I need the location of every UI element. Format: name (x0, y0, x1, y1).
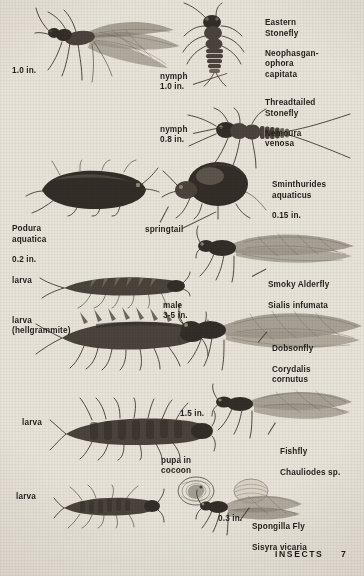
label-eastern-stonefly-name: Eastern Stonefly (265, 18, 299, 37)
figure-sminthurides-springtail (162, 158, 272, 220)
label-spongilla-fly-name: Spongilla Fly (252, 522, 305, 531)
label-larva-fishfly: larva (22, 418, 42, 428)
label-sminthurides-measure: 0.15 in. (272, 211, 301, 220)
label-sminthurides: Sminthurides aquaticus 0.15 in. (272, 170, 326, 221)
label-smoky-alderfly-name: Smoky Alderfly (268, 280, 329, 289)
label-fishfly-size: 1.5 in. (180, 409, 204, 419)
label-pupa: pupa in cocoon (161, 456, 191, 477)
label-dobsonfly-name: Dobsonfly (272, 344, 313, 353)
label-spongilla-fly: Spongilla Fly Sisyra vicaria (252, 512, 307, 553)
label-nymph-1: nymph 1.0 in. (160, 72, 188, 93)
plate-page: Eastern Stonefly Neophasgan- ophora capi… (0, 0, 364, 576)
label-springtail: springtail (145, 225, 183, 235)
label-threadtailed-stonefly: Threadtailed Stonefly Nemoura venosa (265, 88, 315, 150)
label-dobsonfly-latin: Corydalis cornutus (272, 365, 311, 384)
label-male-size: male 3-5 in. (163, 301, 188, 322)
label-fishfly: Fishfly Chauliodes sp. (280, 437, 340, 478)
label-larva-hellgrammite: larva (hellgrammite) (12, 316, 71, 337)
label-eastern-stonefly: Eastern Stonefly Neophasgan- ophora capi… (265, 8, 319, 80)
figure-dobsonfly-adult (178, 300, 364, 378)
label-sminthurides-latin: Sminthurides aquaticus (272, 180, 326, 199)
label-podura-measure: 0.2 in. (12, 255, 36, 264)
label-fishfly-latin: Chauliodes sp. (280, 468, 340, 477)
figure-fishfly-adult (212, 382, 354, 440)
figure-spongilla-larva (54, 484, 164, 528)
label-nymph-2: nymph 0.8 in. (160, 125, 188, 146)
label-dobsonfly: Dobsonfly Corydalis cornutus (272, 334, 313, 385)
label-threadtailed-stonefly-latin: Nemoura venosa (265, 129, 302, 148)
label-smoky-alderfly-latin: Sialis infumata (268, 301, 328, 310)
plate-footer-title: INSECTS (275, 549, 323, 559)
label-larva-alderfly: larva (12, 276, 32, 286)
label-larva-spongilla: larva (16, 492, 36, 502)
label-podura: Podura aquatica 0.2 in. (12, 214, 46, 265)
label-adult-size-1: 1.0 in. (12, 66, 36, 76)
label-smoky-alderfly: Smoky Alderfly Sialis infumata (268, 270, 329, 311)
label-threadtailed-stonefly-name: Threadtailed Stonefly (265, 98, 315, 117)
plate-folio-number: 7 (341, 549, 346, 559)
figure-fishfly-larva (50, 398, 216, 460)
label-fishfly-name: Fishfly (280, 447, 307, 456)
label-podura-latin: Podura aquatica (12, 224, 46, 243)
label-spongilla-size: 0.3 in. (218, 514, 242, 524)
label-eastern-stonefly-latin: Neophasgan- ophora capitata (265, 49, 319, 79)
figure-podura-springtail (24, 160, 160, 216)
